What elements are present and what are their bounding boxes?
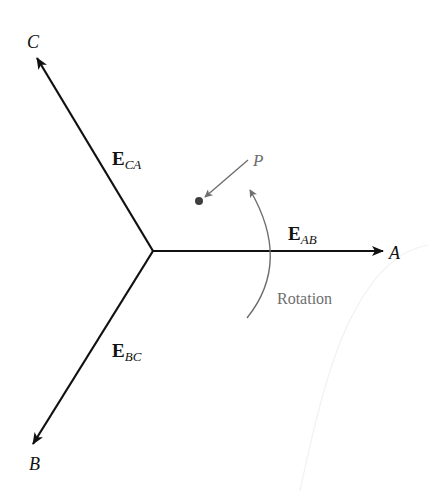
phasor-bc-arrow bbox=[33, 251, 153, 444]
rotation-arc-arrow bbox=[247, 190, 270, 318]
phasor-label-ca: ECA bbox=[112, 148, 141, 172]
phasor-ca-arrow bbox=[37, 58, 153, 251]
endpoint-label-c: C bbox=[27, 32, 40, 52]
phasor-symbol: E bbox=[288, 223, 301, 244]
phasor-symbol: E bbox=[112, 340, 125, 361]
endpoint-label-b: B bbox=[29, 454, 40, 474]
point-p-label: P bbox=[252, 151, 263, 170]
point-p-pointer-arrow bbox=[205, 160, 248, 197]
phasor-subscript: CA bbox=[125, 157, 142, 172]
phasor-subscript: AB bbox=[300, 232, 317, 247]
endpoint-label-a: A bbox=[388, 243, 401, 263]
phasor-subscript: BC bbox=[125, 349, 142, 364]
phasor-label-bc: EBC bbox=[112, 340, 142, 364]
scan-artifact-curve bbox=[300, 245, 428, 491]
phasor-diagram: A C B EAB ECA EBC P Rotation bbox=[0, 0, 432, 491]
phasor-symbol: E bbox=[112, 148, 125, 169]
phasor-label-ab: EAB bbox=[288, 223, 317, 247]
rotation-label: Rotation bbox=[277, 290, 332, 307]
point-p-dot bbox=[195, 197, 203, 205]
